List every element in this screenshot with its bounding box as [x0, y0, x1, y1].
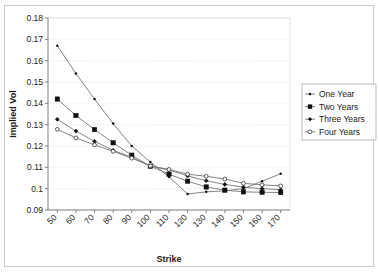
y-tick-label: 0.1: [31, 184, 43, 194]
data-point: [279, 172, 282, 175]
legend-marker: [308, 104, 312, 108]
y-tick-label: 0.13: [26, 120, 43, 130]
x-tick-label: 110: [154, 212, 171, 229]
data-point: [74, 113, 78, 117]
data-point: [185, 179, 189, 183]
y-tick-label: 0.09: [26, 205, 43, 215]
data-point: [92, 127, 96, 131]
x-tick-label: 170: [265, 212, 282, 229]
y-tick-label: 0.11: [27, 162, 43, 172]
data-point: [167, 168, 171, 172]
data-point: [260, 183, 264, 187]
x-tick-label: 70: [82, 212, 96, 226]
data-point: [223, 177, 227, 181]
chart-svg: 0.090.10.110.120.130.140.150.160.170.185…: [0, 0, 379, 275]
data-point: [93, 143, 97, 147]
data-point: [223, 188, 227, 192]
legend-label: Four Years: [319, 127, 360, 137]
y-tick-label: 0.14: [26, 98, 43, 108]
y-tick-label: 0.17: [26, 34, 43, 44]
series-line-1: [57, 99, 280, 192]
x-tick-label: 160: [246, 212, 263, 229]
y-tick-label: 0.18: [26, 13, 43, 23]
y-tick-label: 0.16: [26, 56, 43, 66]
data-point: [241, 190, 245, 194]
data-point: [131, 145, 134, 148]
data-point: [149, 161, 152, 164]
data-point: [55, 127, 59, 131]
x-tick-label: 140: [209, 212, 226, 229]
data-point: [130, 156, 134, 160]
implied-vol-chart: 0.090.10.110.120.130.140.150.160.170.185…: [0, 0, 379, 275]
chart-screenshot: 0.090.10.110.120.130.140.150.160.170.185…: [0, 0, 379, 275]
x-tick-label: 100: [135, 212, 152, 229]
y-tick-label: 0.15: [26, 77, 43, 87]
x-tick-label: 90: [119, 212, 133, 226]
data-point: [93, 98, 96, 101]
data-point: [148, 164, 152, 168]
x-tick-label: 120: [172, 212, 189, 229]
legend-marker: [308, 130, 312, 134]
data-point: [75, 72, 78, 75]
data-point: [223, 182, 227, 186]
data-point: [55, 117, 59, 121]
data-point: [111, 149, 115, 153]
data-point: [204, 174, 208, 178]
data-point: [55, 97, 59, 101]
x-tick-label: 80: [101, 212, 115, 226]
data-point: [205, 191, 208, 194]
legend-label: Three Years: [319, 114, 365, 124]
x-tick-label: 150: [228, 212, 245, 229]
x-tick-label: 60: [64, 212, 78, 226]
data-point: [74, 136, 78, 140]
data-point: [186, 172, 190, 176]
y-tick-label: 0.12: [26, 141, 43, 151]
data-point: [111, 141, 115, 145]
data-point: [204, 179, 208, 183]
legend-label: Two Years: [319, 102, 358, 112]
data-point: [112, 122, 115, 125]
x-axis-title: Strike: [156, 254, 181, 264]
series-line-2: [57, 119, 280, 189]
data-point: [186, 193, 189, 196]
data-point: [167, 172, 171, 176]
legend-label: One Year: [319, 89, 355, 99]
data-point: [279, 184, 283, 188]
data-point: [204, 185, 208, 189]
x-tick-label: 130: [191, 212, 208, 229]
data-point: [261, 180, 264, 183]
data-point: [56, 44, 59, 47]
data-point: [74, 129, 78, 133]
legend-marker: [309, 93, 312, 96]
x-tick-label: 50: [45, 212, 59, 226]
data-point: [242, 181, 246, 185]
y-axis-title: Implied Vol: [8, 90, 18, 137]
